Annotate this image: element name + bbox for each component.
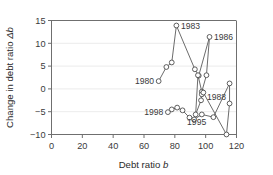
data-point-marker <box>156 79 161 84</box>
x-tick-label: 20 <box>77 141 87 151</box>
data-point-marker <box>164 65 169 70</box>
data-point-marker <box>175 105 180 110</box>
y-tick-label: 0 <box>40 84 45 94</box>
y-tick-label: −10 <box>30 130 46 140</box>
data-point-marker <box>207 35 212 40</box>
y-tick-label: −5 <box>35 107 45 117</box>
x-tick-label: 120 <box>229 141 244 151</box>
data-point-marker <box>201 90 206 95</box>
y-axis-title: Change in debt ratio Δb <box>4 26 15 128</box>
debt-ratio-scatter-line-chart: 020406080100120 −10−5051015 198019831986… <box>0 0 273 175</box>
data-point-marker <box>211 115 216 120</box>
chart-figure: 020406080100120 −10−5051015 198019831986… <box>0 0 273 175</box>
x-axis-title-text: Debt ratio <box>119 159 161 170</box>
data-point-marker <box>169 60 174 65</box>
x-tick-label: 60 <box>139 141 149 151</box>
point-annotation-label: 1995 <box>187 117 206 127</box>
y-axis-title-text: Change in debt ratio <box>4 42 15 128</box>
data-point-marker <box>196 73 201 78</box>
point-annotation-label: 1986 <box>214 32 233 42</box>
data-point-marker <box>227 101 232 106</box>
point-annotation-label: 1998 <box>144 107 163 117</box>
y-tick-label: 10 <box>35 39 45 49</box>
data-point-marker <box>199 98 204 103</box>
data-point-marker <box>193 112 198 117</box>
point-annotation-label: 1980 <box>135 76 154 86</box>
y-tick-label: 5 <box>40 61 45 71</box>
point-annotation-label: 1988 <box>207 92 226 102</box>
x-tick-label: 100 <box>198 141 213 151</box>
y-tick-label: 15 <box>35 16 45 26</box>
x-axis-title-symbol: b <box>163 159 169 170</box>
data-point-marker <box>192 67 197 72</box>
point-annotation-label: 1983 <box>181 21 200 31</box>
x-tick-label: 80 <box>170 141 180 151</box>
data-point-marker <box>224 132 229 137</box>
data-point-marker <box>227 81 232 86</box>
x-tick-label: 0 <box>49 141 54 151</box>
data-point-marker <box>180 108 185 113</box>
x-tick-label: 40 <box>108 141 118 151</box>
data-point-marker <box>174 23 179 28</box>
data-point-marker <box>199 112 204 117</box>
y-axis-title-symbol: Δb <box>4 26 15 39</box>
data-point-marker <box>204 73 209 78</box>
x-axis-title: Debt ratio b <box>119 159 169 170</box>
data-point-marker <box>166 110 171 115</box>
